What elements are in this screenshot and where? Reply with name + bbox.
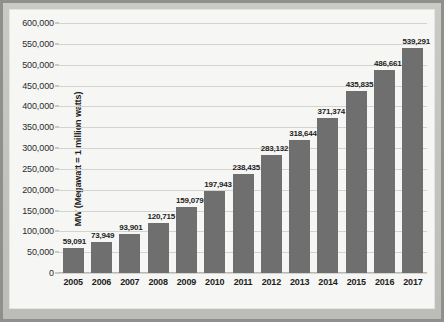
x-tick-label: 2012 [262, 277, 281, 287]
x-tick-label: 2005 [64, 277, 83, 287]
x-tick-label: 2011 [234, 277, 253, 287]
y-tick-label: 400,000 [22, 101, 54, 111]
bar[interactable]: 318,644 [289, 140, 310, 273]
bar-slot: 283,1322012 [257, 23, 285, 273]
y-tick-label: 500,000 [22, 60, 54, 70]
bar-value-label: 159,079 [176, 196, 204, 205]
bar-slot: 318,6442013 [286, 23, 314, 273]
x-tick-label: 2008 [148, 277, 167, 287]
bar-slot: 539,2912017 [399, 23, 427, 273]
bar-slot: 435,8352015 [342, 23, 370, 273]
image-frame: MW (Megawatt = 1 million watts) 050,0001… [0, 0, 444, 322]
chart-panel: MW (Megawatt = 1 million watts) 050,0001… [9, 9, 435, 309]
bar[interactable]: 93,901 [119, 234, 140, 273]
x-tick-label: 2014 [318, 277, 337, 287]
y-tick-label: 150,000 [22, 206, 54, 216]
bar-value-label: 93,901 [119, 223, 142, 232]
x-tick-label: 2006 [92, 277, 111, 287]
bar-value-label: 59,091 [63, 237, 86, 246]
bar[interactable]: 371,374 [317, 118, 338, 273]
bar-value-label: 238,435 [233, 163, 261, 172]
bar-slot: 486,6612016 [370, 23, 398, 273]
bar-slot: 73,9492006 [87, 23, 115, 273]
bar-value-label: 539,291 [402, 37, 430, 46]
bar-value-label: 435,835 [346, 80, 374, 89]
x-tick-label: 2007 [120, 277, 139, 287]
bar-slot: 93,9012007 [116, 23, 144, 273]
y-tick-label: 300,000 [22, 143, 54, 153]
bar-slot: 159,0792009 [172, 23, 200, 273]
y-tick-label: 0 [49, 268, 54, 278]
x-tick-label: 2013 [290, 277, 309, 287]
bar[interactable]: 486,661 [374, 70, 395, 273]
bar[interactable]: 120,715 [148, 223, 169, 273]
bar[interactable]: 283,132 [261, 155, 282, 273]
bar-value-label: 73,949 [91, 231, 114, 240]
bar[interactable]: 73,949 [91, 242, 112, 273]
bar[interactable]: 159,079 [176, 207, 197, 273]
bar-slot: 59,0912005 [59, 23, 87, 273]
y-tick-label: 250,000 [22, 164, 54, 174]
bar[interactable]: 435,835 [346, 91, 367, 273]
bar[interactable]: 539,291 [402, 48, 423, 273]
bar-value-label: 120,715 [148, 212, 176, 221]
x-tick-label: 2017 [403, 277, 422, 287]
plot-area: 050,000100,000150,000200,000250,000300,0… [59, 23, 427, 273]
y-tick-label: 100,000 [22, 226, 54, 236]
bar-value-label: 371,374 [317, 107, 345, 116]
x-tick-label: 2016 [375, 277, 394, 287]
y-tick-label: 200,000 [22, 185, 54, 195]
bar[interactable]: 59,091 [63, 248, 84, 273]
bar-slot: 120,7152008 [144, 23, 172, 273]
x-tick-label: 2009 [177, 277, 196, 287]
bar-value-label: 318,644 [289, 129, 317, 138]
x-tick-label: 2010 [205, 277, 224, 287]
bar-slot: 197,9432010 [201, 23, 229, 273]
bar[interactable]: 197,943 [204, 191, 225, 273]
bar-series: 59,091200573,949200693,9012007120,715200… [59, 23, 427, 273]
y-tick-label: 50,000 [27, 247, 54, 257]
y-tick-label: 350,000 [22, 122, 54, 132]
bar-value-label: 197,943 [204, 180, 232, 189]
bar-slot: 238,4352011 [229, 23, 257, 273]
bar-slot: 371,3742014 [314, 23, 342, 273]
chart-screenshot: MW (Megawatt = 1 million watts) 050,0001… [0, 0, 444, 322]
bar-value-label: 283,132 [261, 144, 289, 153]
bar-value-label: 486,661 [374, 59, 402, 68]
gridline [59, 273, 427, 274]
x-tick-label: 2015 [347, 277, 366, 287]
y-tick-label: 450,000 [22, 81, 54, 91]
y-tick-label: 550,000 [22, 39, 54, 49]
bar[interactable]: 238,435 [233, 174, 254, 273]
y-tick-label: 600,000 [22, 18, 54, 28]
